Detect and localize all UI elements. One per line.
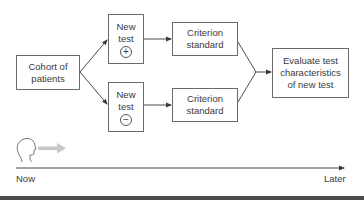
edge-cohort-to-negative	[80, 72, 107, 104]
criterion-bottom-line2: standard	[187, 105, 224, 117]
cohort-of-patients-box: Cohort of patients	[16, 55, 80, 90]
timeline-later-label: Later	[324, 173, 346, 184]
new-test-positive-line1: New	[116, 21, 135, 33]
criterion-top-line1: Criterion	[187, 27, 223, 39]
edge-cohort-to-positive	[80, 40, 107, 72]
minus-circle-icon: −	[120, 114, 132, 126]
criterion-standard-bottom-box: Criterion standard	[172, 88, 238, 122]
evaluate-line2: characteristics	[280, 67, 341, 79]
head-profile-icon	[17, 138, 36, 162]
gray-arrow-icon	[38, 143, 66, 154]
cohort-line1: Cohort of	[28, 61, 67, 73]
edge-criterion-bottom-merge	[238, 72, 256, 102]
new-test-negative-line1: New	[116, 89, 135, 101]
evaluate-line1: Evaluate test	[283, 55, 338, 67]
new-test-positive-box: New test +	[108, 14, 144, 64]
timeline-now-label: Now	[16, 173, 35, 184]
new-test-positive-line2: test	[118, 33, 133, 45]
evaluate-test-characteristics-box: Evaluate test characteristics of new tes…	[272, 48, 349, 98]
plus-circle-icon: +	[120, 46, 132, 58]
edge-criterion-top-merge	[238, 42, 256, 72]
evaluate-line3: of new test	[288, 79, 334, 91]
new-test-negative-line2: test	[118, 101, 133, 113]
criterion-top-line2: standard	[187, 39, 224, 51]
cohort-line2: patients	[31, 73, 64, 85]
bottom-border	[0, 196, 364, 200]
criterion-bottom-line1: Criterion	[187, 93, 223, 105]
criterion-standard-top-box: Criterion standard	[172, 22, 238, 56]
new-test-negative-box: New test −	[108, 82, 144, 132]
